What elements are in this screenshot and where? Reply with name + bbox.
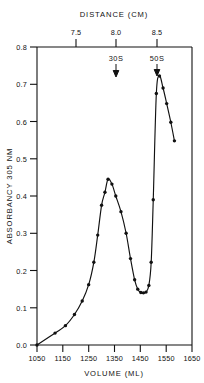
x-ticklabel-1350: 1350 <box>106 354 123 363</box>
top-axis-ticks: 7.5 8.0 8.5 <box>71 28 163 47</box>
data-point <box>133 278 136 281</box>
annotation-30s-arrow-head <box>113 71 119 78</box>
data-point <box>165 102 168 105</box>
data-point <box>129 257 132 260</box>
chart-svg: DISTANCE (CM) 7.5 8.0 8.5 30S 50S <box>0 0 204 383</box>
absorbancy-volume-chart: DISTANCE (CM) 7.5 8.0 8.5 30S 50S <box>0 0 204 383</box>
y-ticklabel-0-3: 0.3 <box>16 229 27 238</box>
data-point <box>161 86 164 89</box>
data-point <box>158 74 161 77</box>
y-ticklabel-0-5: 0.5 <box>16 155 27 164</box>
data-point <box>169 121 172 124</box>
data-point <box>119 210 122 213</box>
x-axis-ticks: 1050 1150 1250 1350 1450 1550 1650 <box>28 345 200 363</box>
data-point <box>64 324 67 327</box>
data-point <box>106 178 109 181</box>
data-curve <box>37 76 174 345</box>
annotation-30s: 30S <box>109 54 124 77</box>
x-ticklabel-1250: 1250 <box>80 354 97 363</box>
y-axis-title: ABSORBANCY 305 NM <box>5 148 14 245</box>
y-ticklabel-0-6: 0.6 <box>16 118 27 127</box>
data-point <box>144 290 147 293</box>
data-point <box>96 233 99 236</box>
data-point <box>149 261 152 264</box>
data-point <box>155 92 158 95</box>
annotation-50s: 50S <box>150 54 165 76</box>
data-point <box>147 284 150 287</box>
y-ticklabel-0-4: 0.4 <box>16 192 27 201</box>
data-point <box>87 283 90 286</box>
data-point <box>114 194 117 197</box>
x-ticklabel-1150: 1150 <box>55 354 72 363</box>
data-point <box>103 191 106 194</box>
top-ticklabel-8-5: 8.5 <box>152 28 163 37</box>
data-point <box>152 198 155 201</box>
data-point <box>173 139 176 142</box>
y-ticklabel-0-7: 0.7 <box>16 80 27 89</box>
data-point <box>110 182 113 185</box>
data-point <box>124 232 127 235</box>
x-axis-title: VOLUME (ML) <box>84 369 144 378</box>
y-ticklabel-0-2: 0.2 <box>16 267 27 276</box>
annotation-30s-label: 30S <box>109 54 124 63</box>
data-point <box>92 261 95 264</box>
x-ticklabel-1050: 1050 <box>28 354 45 363</box>
data-point <box>81 299 84 302</box>
data-point <box>136 287 139 290</box>
data-point <box>73 313 76 316</box>
y-ticklabel-0-8: 0.8 <box>16 43 27 52</box>
y-ticklabel-0-1: 0.1 <box>16 304 27 313</box>
data-point <box>100 204 103 207</box>
x-ticklabel-1450: 1450 <box>132 354 149 363</box>
x-ticklabel-1550: 1550 <box>158 354 175 363</box>
y-ticklabel-0-0: 0.0 <box>16 341 27 350</box>
data-point <box>35 343 38 346</box>
y-axis-ticks: 0.8 0.7 0.6 0.5 0.4 0.3 0.2 0.1 0.0 <box>16 43 37 350</box>
x-ticklabel-1650: 1650 <box>183 354 200 363</box>
data-point <box>53 331 56 334</box>
top-ticklabel-8-0: 8.0 <box>111 28 122 37</box>
top-axis-title: DISTANCE (CM) <box>80 10 149 19</box>
annotation-50s-label: 50S <box>150 54 165 63</box>
top-ticklabel-7-5: 7.5 <box>71 28 82 37</box>
